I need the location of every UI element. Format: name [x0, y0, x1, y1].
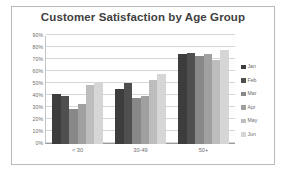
- legend-item-jun[interactable]: Jun: [241, 128, 275, 142]
- gridline-90: [46, 34, 235, 35]
- y-tick-label: 30%: [20, 105, 43, 110]
- gridline-0: [46, 142, 235, 143]
- legend-label: May: [248, 118, 258, 123]
- y-axis: 0%10%20%30%40%50%60%70%80%90%: [20, 36, 43, 144]
- legend-label: Mar: [248, 91, 257, 96]
- y-tick-label: 90%: [20, 33, 43, 38]
- y-tick-label: 70%: [20, 57, 43, 62]
- legend-swatch-icon: [241, 132, 246, 137]
- y-tick-label: 40%: [20, 93, 43, 98]
- legend-item-feb[interactable]: Feb: [241, 74, 275, 88]
- legend-swatch-icon: [241, 65, 246, 70]
- x-tick-label: < 30: [52, 147, 104, 153]
- gridline-60: [46, 70, 235, 71]
- legend-item-mar[interactable]: Mar: [241, 87, 275, 101]
- legend-item-jan[interactable]: Jan: [241, 60, 275, 74]
- y-tick-label: 20%: [20, 117, 43, 122]
- legend-swatch-icon: [241, 78, 246, 83]
- x-tick-label: 30-49: [115, 147, 167, 153]
- x-axis: < 3030-4950+: [46, 147, 235, 153]
- y-tick-label: 50%: [20, 81, 43, 86]
- y-tick-label: 60%: [20, 69, 43, 74]
- chart-frame: Customer Satisfaction by Age Group 0%10%…: [11, 6, 275, 165]
- legend-item-apr[interactable]: Apr: [241, 101, 275, 115]
- chart-title: Customer Satisfaction by Age Group: [12, 11, 274, 23]
- legend-label: Jan: [248, 64, 256, 69]
- legend-swatch-icon: [241, 92, 246, 97]
- gridline-30: [46, 106, 235, 107]
- plot-area: [45, 36, 235, 144]
- legend-label: Jun: [248, 132, 256, 137]
- legend-label: Feb: [248, 78, 257, 83]
- y-tick-label: 10%: [20, 129, 43, 134]
- legend-swatch-icon: [241, 119, 246, 124]
- gridline-70: [46, 58, 235, 59]
- gridline-10: [46, 130, 235, 131]
- legend-item-may[interactable]: May: [241, 114, 275, 128]
- gridline-50: [46, 82, 235, 83]
- gridline-40: [46, 94, 235, 95]
- gridline-80: [46, 46, 235, 47]
- y-tick-label: 0%: [20, 141, 43, 146]
- y-tick-label: 80%: [20, 45, 43, 50]
- chart-legend: JanFebMarAprMayJun: [241, 60, 275, 141]
- legend-swatch-icon: [241, 105, 246, 110]
- gridline-20: [46, 118, 235, 119]
- x-tick-label: 50+: [178, 147, 230, 153]
- legend-label: Apr: [248, 105, 256, 110]
